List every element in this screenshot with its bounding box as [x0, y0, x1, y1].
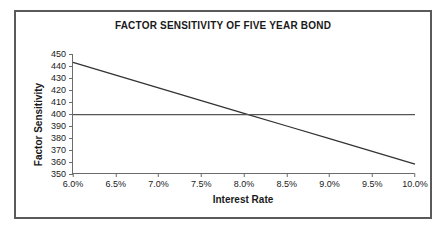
- x-axis-tick-mark: [158, 173, 159, 177]
- data-series-line: [73, 62, 415, 164]
- x-axis-tick-label: 8.5%: [276, 179, 297, 189]
- series-svg: [73, 54, 415, 174]
- x-axis-tick: 7.5%: [191, 173, 212, 189]
- y-axis-tick-mark: [69, 66, 73, 67]
- y-axis-tick: 430: [51, 73, 73, 83]
- y-axis-tick: 400: [51, 109, 73, 119]
- y-axis-tick-label: 440: [51, 61, 69, 71]
- chart-title: FACTOR SENSITIVITY OF FIVE YEAR BOND: [16, 20, 430, 31]
- y-axis-tick-label: 370: [51, 145, 69, 155]
- y-axis-tick-label: 390: [51, 121, 69, 131]
- y-axis-tick-label: 420: [51, 85, 69, 95]
- y-axis-title-label: Factor Sensitivity: [34, 82, 45, 165]
- x-axis-tick-mark: [372, 173, 373, 177]
- x-axis-tick-label: 9.5%: [362, 179, 383, 189]
- x-axis-tick: 8.5%: [276, 173, 297, 189]
- x-axis-tick: 8.0%: [234, 173, 255, 189]
- x-axis-tick: 9.0%: [319, 173, 340, 189]
- x-axis-tick-mark: [72, 173, 73, 177]
- y-axis-tick: 420: [51, 85, 73, 95]
- x-axis-tick-mark: [329, 173, 330, 177]
- y-axis-tick: 450: [51, 49, 73, 59]
- x-axis-tick-label: 9.0%: [319, 179, 340, 189]
- chart-frame: FACTOR SENSITIVITY OF FIVE YEAR BOND Fac…: [14, 10, 432, 219]
- y-axis-tick-mark: [69, 126, 73, 127]
- y-axis-tick-mark: [69, 114, 73, 115]
- x-axis-tick-label: 8.0%: [234, 179, 255, 189]
- y-axis-title: Factor Sensitivity: [32, 64, 46, 184]
- y-axis-tick: 370: [51, 145, 73, 155]
- y-axis-tick-mark: [69, 150, 73, 151]
- x-axis-tick-mark: [243, 173, 244, 177]
- x-axis-tick-label: 7.5%: [191, 179, 212, 189]
- y-axis-tick: 410: [51, 97, 73, 107]
- x-axis-tick: 6.0%: [63, 173, 84, 189]
- y-axis-tick-label: 450: [51, 49, 69, 59]
- x-axis-tick-label: 7.0%: [148, 179, 169, 189]
- y-axis-tick-mark: [69, 90, 73, 91]
- x-axis-tick-label: 6.0%: [63, 179, 84, 189]
- y-axis-tick-mark: [69, 54, 73, 55]
- y-axis-tick: 380: [51, 133, 73, 143]
- x-axis-tick-mark: [286, 173, 287, 177]
- x-axis-tick: 9.5%: [362, 173, 383, 189]
- y-axis-tick-mark: [69, 78, 73, 79]
- y-axis-tick-label: 430: [51, 73, 69, 83]
- y-axis-tick-label: 400: [51, 109, 69, 119]
- plot-area: 450440430420410400390380370360350 6.0%6.…: [72, 54, 414, 174]
- x-axis-title: Interest Rate: [72, 194, 414, 205]
- x-axis-tick: 10.0%: [402, 173, 428, 189]
- y-axis-tick-mark: [69, 102, 73, 103]
- y-axis-tick-label: 360: [51, 157, 69, 167]
- x-axis-tick: 6.5%: [105, 173, 126, 189]
- y-axis-tick-mark: [69, 162, 73, 163]
- plot-area-wrapper: 450440430420410400390380370360350 6.0%6.…: [72, 54, 414, 174]
- x-axis-tick-label: 10.0%: [402, 179, 428, 189]
- y-axis-tick-label: 380: [51, 133, 69, 143]
- y-axis-tick-label: 410: [51, 97, 69, 107]
- x-axis-tick-mark: [415, 173, 416, 177]
- x-axis-tick-mark: [115, 173, 116, 177]
- x-axis-tick: 7.0%: [148, 173, 169, 189]
- y-axis-tick: 390: [51, 121, 73, 131]
- x-axis-tick-label: 6.5%: [105, 179, 126, 189]
- y-axis-tick-mark: [69, 138, 73, 139]
- y-axis-tick: 360: [51, 157, 73, 167]
- x-axis-tick-mark: [201, 173, 202, 177]
- y-axis-tick: 440: [51, 61, 73, 71]
